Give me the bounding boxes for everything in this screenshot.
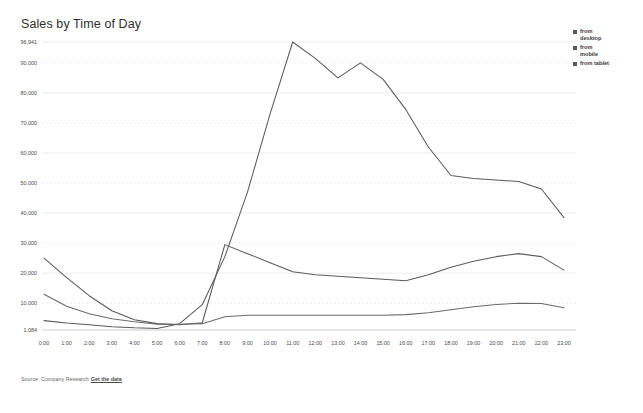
x-axis-tick-label: 8:00 (220, 340, 231, 346)
x-axis-tick-label: 13:00 (331, 340, 345, 346)
legend-swatch-mobile (573, 46, 577, 50)
x-axis-tick-label: 3:00 (107, 340, 118, 346)
x-axis-tick-label: 0:00 (39, 340, 50, 346)
data-series-group (44, 42, 564, 328)
x-axis-tick-label: 16:00 (399, 340, 413, 346)
x-axis-tick-label: 6:00 (174, 340, 185, 346)
legend-label-mobile: from mobile (580, 44, 610, 57)
series-line-from-desktop (44, 42, 564, 328)
get-the-data-link[interactable]: Get the data (91, 376, 122, 382)
legend-item-tablet[interactable]: from tablet (573, 60, 639, 67)
x-axis-tick-label: 18:00 (444, 340, 458, 346)
x-axis-tick-label: 17:00 (422, 340, 436, 346)
y-axis-tick-label: 40,000 (21, 210, 38, 216)
x-axis-tick-label: 20:00 (489, 340, 503, 346)
x-axis-tick-label: 22:00 (535, 340, 549, 346)
legend-label-tablet: from tablet (580, 60, 609, 67)
x-axis-tick-label: 19:00 (467, 340, 481, 346)
x-axis-tick-label: 4:00 (129, 340, 140, 346)
y-axis-tick-label: 70,000 (21, 120, 38, 126)
y-axis-tick-label: 60,000 (21, 150, 38, 156)
series-line-from-tablet (44, 294, 564, 324)
legend-label-desktop: from desktop (580, 28, 610, 41)
x-axis-tick-label: 10:00 (263, 340, 277, 346)
x-axis-tick-label: 23:00 (557, 340, 571, 346)
y-axis-tick-label: 20,000 (21, 270, 38, 276)
x-axis-tick-label: 5:00 (152, 340, 163, 346)
y-axis-tick-label: 90,000 (21, 60, 38, 66)
x-axis-tick-label: 15:00 (376, 340, 390, 346)
y-axis-tick-label: 30,000 (21, 240, 38, 246)
chart-footer: Source: Company ResearchGet the data (21, 376, 122, 382)
x-axis-tick-label: 12:00 (309, 340, 323, 346)
y-axis-tick-label: 80,000 (21, 90, 38, 96)
legend-swatch-desktop (573, 30, 577, 34)
x-axis-tick-label: 11:00 (286, 340, 299, 346)
chart-legend: from desktop from mobile from tablet (573, 28, 639, 70)
legend-item-desktop[interactable]: from desktop (573, 28, 639, 41)
source-label: Source: Company Research (21, 376, 89, 382)
x-axis-tick-label: 7:00 (197, 340, 208, 346)
chart-card: Sales by Time of Day 96,94190,00080,0007… (0, 0, 643, 413)
x-axis-tick-label: 14:00 (354, 340, 368, 346)
series-line-from-mobile (44, 245, 564, 325)
y-axis-labels-group: 96,94190,00080,00070,00060,00050,00040,0… (21, 39, 38, 333)
y-axis-tick-label: 50,000 (21, 180, 38, 186)
gridlines-group (42, 42, 576, 330)
x-axis-tick-label: 21:00 (512, 340, 526, 346)
y-axis-tick-label: 10,000 (21, 300, 38, 306)
legend-swatch-tablet (573, 62, 577, 66)
x-axis-labels-group: 0:001:002:003:004:005:006:007:008:009:00… (39, 340, 571, 346)
x-axis-tick-label: 9:00 (242, 340, 253, 346)
y-axis-tick-label: 1,084 (24, 327, 38, 333)
x-axis-tick-label: 1:00 (61, 340, 72, 346)
y-axis-tick-label: 96,941 (21, 39, 38, 45)
legend-item-mobile[interactable]: from mobile (573, 44, 639, 57)
line-chart-plot: 96,94190,00080,00070,00060,00050,00040,0… (0, 0, 643, 413)
x-axis-tick-label: 2:00 (84, 340, 95, 346)
